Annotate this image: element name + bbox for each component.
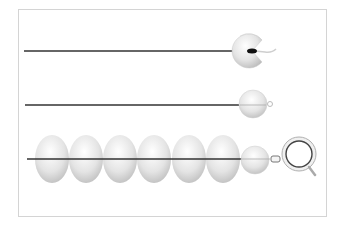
step-2-closed-bead-tip xyxy=(25,90,273,118)
bead-tip-icon xyxy=(241,146,269,174)
loop-icon xyxy=(268,102,273,107)
step-1-open-bead-tip xyxy=(24,34,276,68)
jump-ring-icon xyxy=(271,156,280,162)
beading-diagram xyxy=(0,0,342,229)
clasp-trigger-icon xyxy=(309,167,315,175)
bead-tip-icon xyxy=(239,90,267,118)
hook-icon xyxy=(255,49,276,52)
step-3-pearl-strand xyxy=(27,135,316,183)
knot-icon xyxy=(247,49,257,54)
